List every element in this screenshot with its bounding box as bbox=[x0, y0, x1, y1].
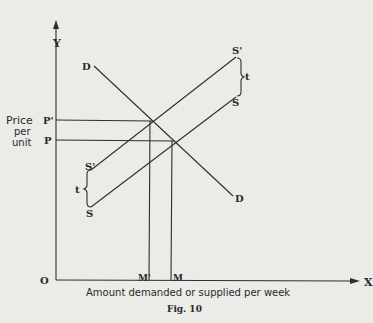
y-title-line-2: per bbox=[14, 126, 32, 137]
x-axis-arrow-icon bbox=[350, 278, 360, 284]
label-new-price: P' bbox=[43, 115, 54, 126]
new-price-line bbox=[56, 120, 152, 121]
label-demand-top: D bbox=[82, 61, 91, 72]
tax-brace-left-icon bbox=[84, 170, 91, 207]
figure-caption: Fig. 10 bbox=[167, 304, 202, 314]
x-axis bbox=[56, 280, 352, 281]
label-shifted-supply-top: S' bbox=[232, 45, 242, 56]
label-tax-left: t bbox=[75, 184, 80, 195]
label-x: X bbox=[364, 276, 373, 289]
y-title-line-3: unit bbox=[12, 137, 31, 148]
label-new-quantity: M' bbox=[138, 273, 151, 283]
old-quantity-line bbox=[171, 141, 172, 280]
tax-brace-right-icon bbox=[237, 58, 244, 96]
label-original-supply-bottom: S bbox=[86, 208, 93, 219]
y-axis-arrow-icon bbox=[53, 20, 59, 29]
label-demand-bottom: D bbox=[235, 193, 244, 204]
label-origin: O bbox=[40, 275, 49, 286]
label-original-supply-top: S bbox=[232, 97, 239, 108]
label-shifted-supply-bottom: S' bbox=[85, 161, 95, 172]
label-tax-right: t bbox=[245, 71, 250, 82]
label-old-price: P bbox=[44, 135, 52, 146]
x-title: Amount demanded or supplied per week bbox=[86, 287, 290, 298]
new-quantity-line bbox=[149, 121, 150, 280]
tax-supply-demand-diagram: Y X O D D S' S S' S t t P' P M' M Price … bbox=[0, 0, 373, 323]
label-y: Y bbox=[52, 37, 61, 50]
demand-curve bbox=[94, 66, 233, 196]
label-old-quantity: M bbox=[173, 273, 183, 283]
axes bbox=[53, 20, 360, 284]
old-price-line bbox=[56, 140, 174, 141]
